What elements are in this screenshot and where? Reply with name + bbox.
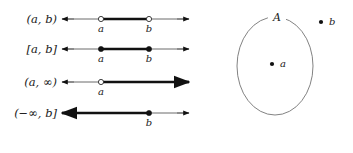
endpoint-closed-a [98, 46, 103, 51]
endpoint-open-b [146, 16, 151, 21]
interval-label-closed-ray-left: (−∞, b] [14, 106, 57, 120]
endpoint-tick-label-b: b [146, 23, 152, 34]
endpoint-tick-label-a: a [98, 53, 104, 64]
math-figure: (a, b) a b [a, b] a b (a, ∞) [0, 0, 353, 153]
interval-row-closed-bounded: [a, b] a b [26, 42, 189, 64]
interval-label-open-ray-right: (a, ∞) [24, 75, 57, 89]
set-label-A: A [272, 11, 281, 24]
member-dot-a [270, 62, 274, 66]
interval-label-open-bounded: (a, b) [26, 12, 57, 26]
endpoint-open-a [98, 16, 103, 21]
set-membership-diagram: A a b [237, 11, 335, 115]
endpoint-tick-label-b: b [146, 53, 152, 64]
interval-row-closed-ray-left: (−∞, b] b [14, 106, 189, 128]
endpoint-closed-b [146, 110, 151, 115]
figure-canvas: (a, b) a b [a, b] a b (a, ∞) [0, 0, 353, 153]
endpoint-tick-label-b: b [146, 117, 152, 128]
interval-label-closed-bounded: [a, b] [26, 42, 57, 56]
nonmember-label-b: b [329, 16, 335, 27]
interval-row-open-bounded: (a, b) a b [26, 12, 189, 34]
endpoint-tick-label-a: a [98, 86, 104, 97]
endpoint-open-a [98, 79, 103, 84]
endpoint-closed-b [146, 46, 151, 51]
nonmember-dot-b [319, 20, 323, 24]
member-label-a: a [280, 58, 286, 69]
set-ellipse-A [237, 17, 313, 115]
interval-row-open-ray-right: (a, ∞) a [24, 75, 189, 97]
endpoint-tick-label-a: a [98, 23, 104, 34]
